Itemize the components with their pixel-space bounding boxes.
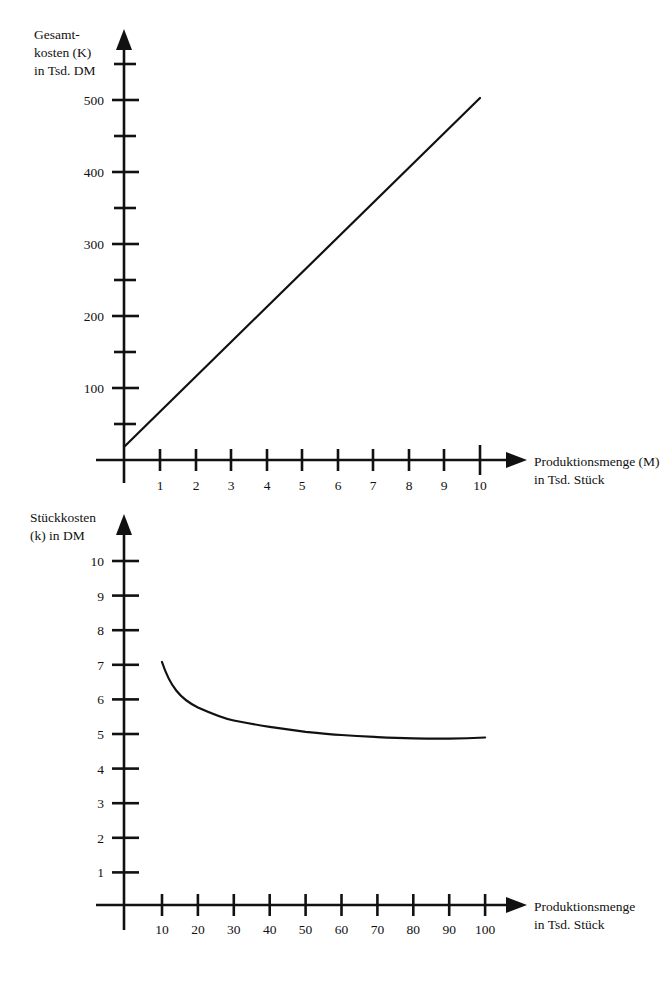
y-tick-labels-chart1: 100 200 300 400 500: [84, 93, 105, 396]
y-axis-caption-line: Gesamt-: [34, 27, 80, 42]
y-tick-label: 4: [97, 762, 104, 777]
x-axis-caption-chart2: Produktionsmenge in Tsd. Stück: [534, 899, 635, 932]
x-axis-caption-line: in Tsd. Stück: [534, 917, 605, 932]
x-tick-label: 70: [371, 922, 385, 937]
x-tick-label: 2: [193, 478, 200, 493]
y-axis-caption-line: Stückkosten: [30, 510, 96, 525]
x-tick-label: 80: [407, 922, 421, 937]
y-axis-caption-line: in Tsd. DM: [34, 63, 95, 78]
y-tick-label: 500: [84, 93, 105, 108]
y-tick-label: 200: [84, 309, 105, 324]
y-tick-label: 400: [84, 165, 105, 180]
series-gesamtkosten-line: [125, 98, 480, 446]
x-axis-caption-line: Produktionsmenge (M): [534, 454, 660, 469]
x-tick-label: 8: [406, 478, 413, 493]
x-tick-label: 50: [299, 922, 313, 937]
chart-gesamtkosten: 100 200 300 400 500 1: [0, 0, 661, 500]
y-tick-label: 9: [97, 589, 104, 604]
figure-page: 100 200 300 400 500 1: [0, 0, 661, 983]
y-tick-label: 2: [97, 831, 104, 846]
x-tick-label: 40: [263, 922, 277, 937]
series-stueckkosten-curve: [162, 662, 485, 739]
y-tick-label: 1: [97, 865, 104, 880]
x-tick-label: 4: [264, 478, 271, 493]
x-tick-label: 60: [335, 922, 349, 937]
y-axis-arrow-icon-chart1: [116, 29, 132, 50]
y-tick-label: 3: [97, 796, 104, 811]
y-axis-caption-chart1: Gesamt- kosten (K) in Tsd. DM: [34, 27, 95, 78]
x-tick-label: 5: [299, 478, 306, 493]
y-tick-label: 300: [84, 237, 105, 252]
x-axis-arrow-icon-chart2: [506, 897, 527, 913]
x-tick-label: 10: [473, 478, 487, 493]
chart-stueckkosten: 10 9 8 7 6 5 4 3 2 1: [0, 500, 661, 983]
y-axis-caption-line: kosten (K): [34, 45, 91, 60]
x-tick-label: 6: [335, 478, 342, 493]
x-axis-caption-line: Produktionsmenge: [534, 899, 635, 914]
x-tick-label: 90: [442, 922, 456, 937]
x-tick-label: 3: [228, 478, 235, 493]
x-axis-caption-chart1: Produktionsmenge (M) in Tsd. Stück: [534, 454, 660, 487]
y-tick-label: 5: [97, 727, 104, 742]
x-tick-label: 20: [191, 922, 205, 937]
y-ticks-chart2: [112, 561, 139, 872]
y-axis-caption-chart2: Stückkosten (k) in DM: [30, 510, 96, 543]
x-tick-labels-chart1: 1 2 3 4 5 6 7 8 9 10: [157, 478, 487, 493]
x-tick-label: 7: [370, 478, 377, 493]
chart-stueckkosten-canvas: 10 9 8 7 6 5 4 3 2 1: [0, 500, 661, 983]
y-axis-arrow-icon-chart2: [116, 514, 132, 535]
y-major-ticks-chart1: [112, 100, 139, 388]
y-tick-label: 8: [97, 623, 104, 638]
y-tick-labels-chart2: 10 9 8 7 6 5 4 3 2 1: [91, 554, 105, 880]
y-tick-label: 6: [97, 692, 104, 707]
x-tick-label: 100: [475, 922, 496, 937]
x-tick-label: 1: [157, 478, 164, 493]
y-tick-label: 7: [97, 658, 104, 673]
x-tick-label: 10: [155, 922, 169, 937]
y-axis-caption-line: (k) in DM: [30, 528, 85, 543]
x-tick-labels-chart2: 10 20 30 40 50 60 70 80 90 100: [155, 922, 495, 937]
x-tick-label: 9: [441, 478, 448, 493]
x-axis-caption-line: in Tsd. Stück: [534, 472, 605, 487]
y-tick-label: 100: [84, 381, 105, 396]
x-axis-arrow-icon-chart1: [506, 452, 527, 468]
x-tick-label: 30: [227, 922, 241, 937]
y-tick-label: 10: [91, 554, 105, 569]
chart-gesamtkosten-canvas: 100 200 300 400 500 1: [0, 0, 661, 500]
